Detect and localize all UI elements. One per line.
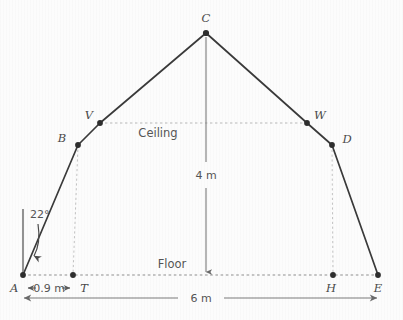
surface-labels: Ceiling Floor [138, 126, 186, 271]
vertex-label-E: E [373, 281, 383, 295]
vertex-dot-E [375, 272, 381, 278]
vertex-label-W: W [314, 108, 327, 122]
vertex-label-C: C [202, 11, 211, 25]
vertex-dot-B [75, 142, 81, 148]
vertex-dot-H [330, 272, 336, 278]
vertex-label-H: H [325, 281, 337, 295]
vertex-dot-T [70, 272, 76, 278]
vertex-dot-V [97, 120, 103, 126]
diagram-canvas: A B V C W D E T H Ceiling Floor 4 m 6 m … [0, 0, 403, 320]
vertex-label-D: D [341, 132, 351, 146]
vertex-labels: A B V C W D E T H [9, 11, 383, 295]
vertex-label-B: B [57, 131, 66, 145]
left-vertical-dotted-line [73, 145, 78, 275]
room-outline-path [23, 33, 378, 275]
angle-curved-arrow [34, 224, 39, 256]
offset-dimension-label: 0.9 m [33, 282, 65, 295]
vertex-dot-D [329, 142, 335, 148]
vertex-dot-A [20, 272, 26, 278]
geometry-diagram: A B V C W D E T H Ceiling Floor 4 m 6 m … [0, 0, 403, 320]
height-dimension-label: 4 m [195, 169, 216, 182]
width-dimension-label: 6 m [190, 292, 211, 305]
vertex-label-T: T [80, 281, 89, 295]
vertex-dot-W [304, 120, 310, 126]
floor-label: Floor [158, 257, 187, 271]
vertex-dot-C [203, 30, 209, 36]
dimension-labels: 4 m 6 m 0.9 m [33, 169, 216, 305]
angle-label-22deg: 22° [30, 208, 50, 221]
right-vertical-dotted-line [332, 145, 333, 275]
ceiling-label: Ceiling [138, 126, 177, 140]
vertex-label-V: V [85, 108, 95, 122]
vertex-label-A: A [9, 281, 18, 295]
